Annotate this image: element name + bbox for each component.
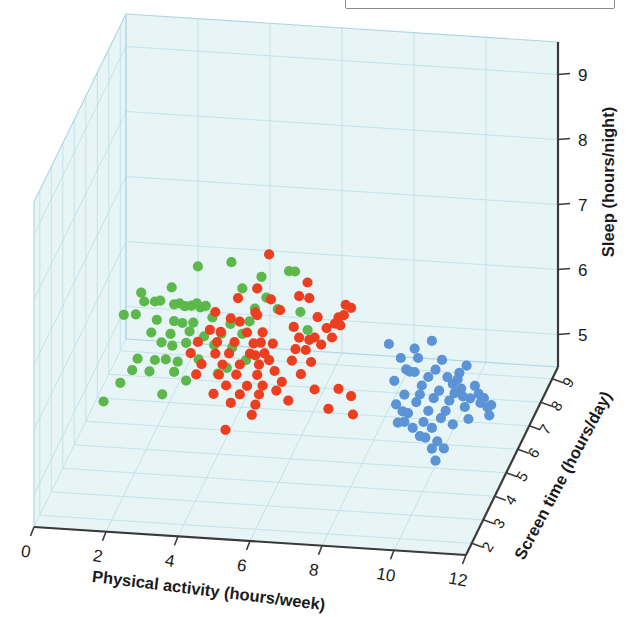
data-point — [247, 410, 257, 420]
data-point — [226, 398, 236, 408]
data-point — [233, 293, 243, 303]
data-point — [399, 417, 409, 427]
data-point — [277, 377, 287, 387]
x-tick — [175, 536, 179, 545]
data-point — [235, 389, 245, 399]
data-point — [306, 357, 316, 367]
data-point — [173, 357, 183, 367]
data-point — [427, 444, 437, 454]
data-point — [475, 398, 485, 408]
data-point — [181, 338, 191, 348]
data-point — [205, 325, 215, 335]
x-axis-title: Physical activity (hours/week) — [91, 567, 326, 613]
data-point — [430, 456, 440, 466]
z-tick-label: 9 — [559, 374, 578, 390]
y-tick — [558, 334, 570, 335]
data-point — [408, 423, 418, 433]
data-point — [136, 288, 146, 298]
data-point — [463, 414, 473, 424]
data-point — [275, 305, 285, 315]
data-point — [144, 366, 154, 376]
data-point — [217, 359, 227, 369]
data-point — [411, 397, 421, 407]
y-axis-title: Sleep (hours/night) — [599, 107, 617, 257]
data-point — [413, 353, 423, 363]
data-point — [423, 406, 433, 416]
data-point — [210, 349, 220, 359]
data-point — [254, 360, 264, 370]
data-point — [264, 355, 274, 365]
data-point — [294, 291, 304, 301]
data-point — [290, 344, 300, 354]
data-point — [150, 355, 160, 365]
x-tick-label: 2 — [92, 546, 105, 566]
data-point — [193, 261, 203, 271]
data-point — [430, 365, 440, 375]
data-point — [346, 303, 356, 313]
y-tick-label: 6 — [578, 261, 587, 280]
data-point — [235, 317, 245, 327]
data-point — [193, 337, 203, 347]
data-point — [99, 396, 109, 406]
data-point — [316, 340, 326, 350]
data-point — [427, 423, 437, 433]
data-point — [161, 354, 171, 364]
data-point — [302, 277, 312, 287]
x-tick — [391, 550, 395, 559]
z-tick-label: 6 — [524, 445, 543, 461]
data-point — [270, 366, 280, 376]
z-tick-label: 4 — [501, 492, 520, 508]
data-point — [304, 293, 314, 303]
data-point — [256, 272, 266, 282]
data-point — [250, 400, 260, 410]
data-point — [220, 425, 230, 435]
data-point — [167, 282, 177, 292]
data-point — [427, 336, 437, 346]
y-tick — [558, 139, 570, 140]
panel-surfaces — [34, 14, 558, 555]
data-point — [410, 344, 420, 354]
plot-canvas: 0246810122345678956789Physical activity … — [0, 0, 632, 617]
data-point — [231, 370, 241, 380]
data-point — [242, 327, 252, 337]
x-tick-label: 12 — [447, 569, 469, 591]
z-tick-label: 7 — [536, 421, 555, 437]
data-point — [133, 354, 143, 364]
data-point — [444, 396, 454, 406]
data-point — [313, 312, 323, 322]
data-point — [250, 350, 260, 360]
x-tick — [103, 532, 107, 541]
data-point — [420, 433, 430, 443]
y-tick — [558, 204, 570, 205]
z-tick-label: 2 — [478, 539, 497, 555]
data-point — [115, 378, 125, 388]
data-point — [119, 310, 129, 320]
data-point — [252, 370, 262, 380]
data-point — [212, 337, 222, 347]
data-point — [167, 341, 177, 351]
z-tick-label: 8 — [547, 398, 566, 414]
data-point — [396, 353, 406, 363]
data-point — [448, 419, 458, 429]
data-point — [214, 370, 224, 380]
data-point — [348, 409, 358, 419]
data-point — [258, 381, 268, 391]
data-point — [131, 309, 141, 319]
data-point — [266, 294, 276, 304]
data-point — [484, 410, 494, 420]
data-point — [229, 337, 239, 347]
data-point — [242, 381, 252, 391]
data-point — [256, 338, 266, 348]
data-point — [462, 361, 472, 371]
y-tick — [558, 269, 570, 270]
data-point — [268, 339, 278, 349]
y-tick — [558, 74, 570, 75]
data-point — [295, 307, 305, 317]
data-point — [264, 249, 274, 259]
data-point — [296, 369, 306, 379]
data-point — [254, 389, 264, 399]
data-point — [417, 380, 427, 390]
data-point — [155, 296, 165, 306]
data-point — [157, 389, 167, 399]
y-tick-label: 5 — [578, 326, 587, 345]
